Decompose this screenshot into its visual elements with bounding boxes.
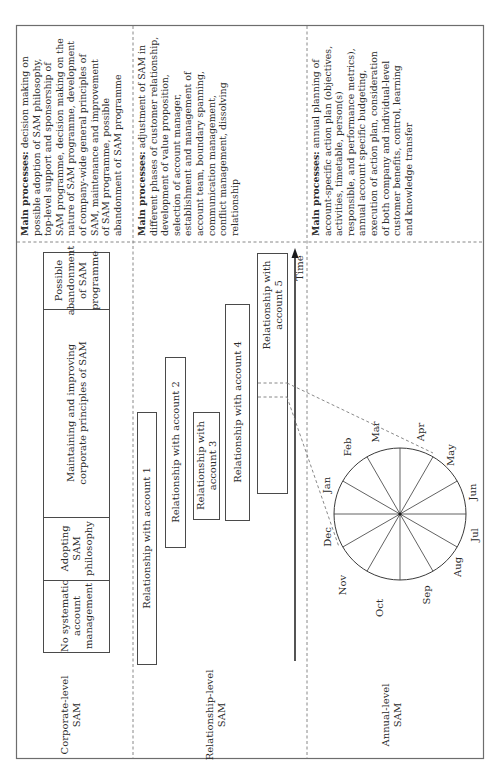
month-label-jun: Jun (467, 483, 478, 501)
sam-levels-diagram: Corporate-levelSAMRelationship-levelSAMA… (0, 0, 496, 763)
main-processes-line: account-specific action plan (objectives… (322, 46, 333, 236)
main-processes-line: responsible, and performance metrics), (345, 48, 356, 236)
main-processes-line: of both company and individual-level (380, 61, 391, 236)
corporate-phase-label-line: philosophy (83, 521, 94, 576)
relationship-label: Relationship with account 2 (170, 381, 181, 523)
main-processes-blocks: Main processes: decision making onpossib… (19, 37, 414, 236)
main-processes-line: execution of action plan, consideration (368, 51, 379, 236)
level-labels: Corporate-levelSAMRelationship-levelSAMA… (59, 670, 403, 761)
main-processes-line: customer benefits, control, learning (391, 65, 402, 236)
relationship-bars: Relationship with account 1Relationship … (138, 254, 288, 665)
level-label-relationship-line: Relationship-level (204, 670, 215, 761)
main-processes-line: conflict management, dissolving (217, 82, 228, 236)
main-processes-line: SAM programme, decision making on the (54, 38, 65, 236)
main-processes-line: and knowledge transfer (403, 122, 414, 236)
level-label-relationship: Relationship-levelSAM (204, 670, 227, 761)
corporate-phase-label-line: account (71, 596, 82, 636)
month-label-nov: Nov (337, 574, 348, 595)
main-processes-line: decision making on (19, 56, 30, 151)
corporate-phase-label-line: No systematic (59, 580, 70, 652)
level-label-corporate-line: SAM (71, 703, 82, 727)
corporate-phase-label-line: of SAM (77, 262, 88, 299)
month-label-jan: Jan (321, 476, 332, 494)
main-processes-corporate: Main processes: decision making onpossib… (19, 38, 123, 236)
month-label-feb: Feb (342, 438, 353, 457)
main-processes-line: annual account specific budgeting, (356, 70, 367, 236)
annual-month-wheel: JanFebMarAprMayJunJulAugSepOctNovDec (321, 421, 480, 617)
main-processes-line: adjustment of SAM in (136, 45, 147, 151)
main-processes-line: annual planning of (310, 58, 321, 152)
main-processes-line: abandonment of SAM programme (112, 74, 123, 236)
main-processes-line: SAM, maintenance and improvement (89, 59, 100, 236)
corporate-phase-label-line: Possible (53, 260, 64, 301)
main-processes-line: top-level support and sponsorship of (42, 61, 53, 236)
level-label-annual: Annual-levelSAM (380, 684, 403, 748)
relationship-label-line: Relationship with (195, 421, 206, 510)
level-label-relationship-line: SAM (216, 703, 227, 727)
main-processes-line: different phases of customer relationshi… (148, 37, 159, 236)
main-processes-heading: Main processes: (310, 151, 321, 236)
relationship-label-line: Relationship with account 1 (141, 467, 152, 609)
month-label-sep: Sep (421, 585, 432, 604)
corporate-phase-label-line: corporate principles of SAM (77, 341, 88, 484)
main-processes-line: activities, timetable, person(s) (333, 91, 344, 236)
corporate-phase-label-line: programme (89, 251, 100, 310)
level-label-annual-line: Annual-level (380, 684, 391, 748)
main-processes-relationship: Main processes: adjustment of SAM indiff… (136, 37, 240, 236)
month-label-may: May (445, 444, 456, 466)
corporate-phase-label-line: management (83, 583, 94, 649)
level-label-corporate: Corporate-levelSAM (59, 676, 82, 755)
relationship-label-line: Relationship with (261, 260, 272, 349)
relationship-label-line: Relationship with account 2 (170, 381, 181, 523)
relationship-label-line: account 5 (273, 280, 284, 330)
corporate-phase-label: Maintaining and improvingcorporate princ… (65, 341, 88, 484)
corporate-phase-label-line: SAM (71, 536, 82, 560)
relationship-label: Relationship with account 4 (232, 341, 243, 483)
corporate-phase-label-line: Maintaining and improving (65, 343, 76, 482)
main-processes-line: possible adoption of SAM philosophy, (31, 58, 42, 236)
year-wheel-hub (398, 512, 401, 515)
time-axis-label: Time (294, 255, 305, 280)
month-label-aug: Aug (452, 556, 463, 578)
main-processes-line: nature of SAM programme, development (65, 41, 76, 236)
main-processes-line: communication management, (206, 95, 217, 236)
corporate-phases: No systematicaccountmanagementAdoptingSA… (44, 246, 110, 653)
main-processes-line: of SAM programme, possible (100, 97, 111, 236)
month-label-dec: Dec (322, 527, 333, 547)
time-axis: Time (292, 248, 306, 661)
month-label-apr: Apr (415, 423, 426, 443)
main-processes-annual: Main processes: annual planning ofaccoun… (310, 46, 414, 236)
main-processes-line: selection of account manager, (171, 94, 182, 236)
main-processes-line: development of value proposition, (159, 74, 170, 236)
month-label-jul: Jul (469, 528, 480, 543)
main-processes-line: of company-wide general principles of (77, 53, 88, 236)
relationship-label: Relationship with account 1 (141, 467, 152, 609)
level-label-corporate-line: Corporate-level (59, 676, 70, 755)
main-processes-heading: Main processes: (136, 151, 147, 236)
zoom-connector-upper (287, 383, 433, 453)
level-label-annual-line: SAM (392, 703, 403, 727)
relationship-label-line: Relationship with account 4 (232, 341, 243, 483)
corporate-phase-label-line: abandonment (65, 246, 76, 316)
main-processes-line: establishment and management of (182, 70, 193, 236)
main-processes-line: relationship (229, 179, 240, 236)
month-label-mar: Mar (370, 421, 381, 442)
main-processes-heading: Main processes: (19, 151, 30, 236)
month-label-oct: Oct (374, 599, 385, 617)
corporate-phase-label-line: Adopting (59, 525, 70, 573)
main-processes-line: account team, boundary spanning, (194, 71, 205, 236)
relationship-label-line: account 3 (207, 441, 218, 491)
